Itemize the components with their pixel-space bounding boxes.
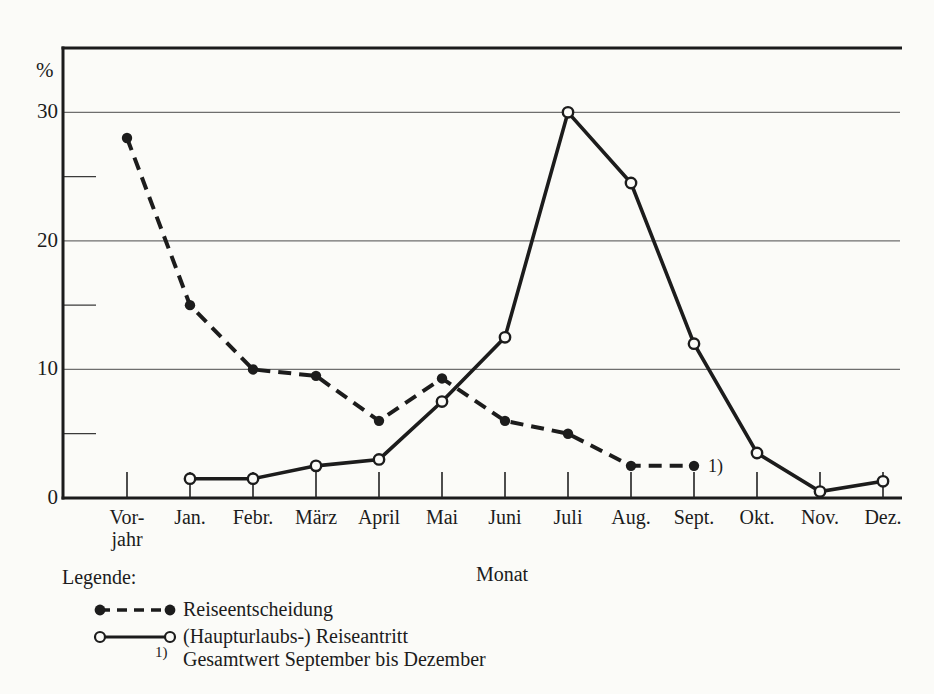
data-point-open (563, 107, 573, 117)
y-tick-label-10: 10 (12, 356, 58, 381)
data-point-filled (500, 416, 510, 426)
y-tick-label-0: 0 (12, 485, 58, 510)
series-line-solid (190, 112, 883, 491)
data-point-filled (689, 461, 699, 471)
data-point-filled (248, 364, 258, 374)
data-point-open (689, 339, 699, 349)
data-point-filled (122, 133, 132, 143)
series-line-dashed (127, 138, 694, 466)
x-axis-title: Monat (452, 563, 552, 586)
dashed-line-legend-marker (92, 601, 178, 619)
line-chart-canvas: 1) (0, 0, 934, 694)
data-point-filled (437, 373, 447, 383)
data-point-filled (626, 461, 636, 471)
data-point-open (626, 178, 636, 188)
y-tick-label-20: 20 (12, 228, 58, 253)
chart-figure: 1) 0102030 Vor- jahrJan.Febr.MärzAprilMa… (0, 0, 934, 694)
footnote-reference-annotation: 1) (708, 456, 723, 477)
data-point-filled (563, 429, 573, 439)
data-point-open (437, 396, 447, 406)
data-point-filled (374, 416, 384, 426)
data-point-open (374, 454, 384, 464)
x-tick-label-dez: Dez. (845, 507, 921, 529)
legend-label-reiseentscheidung: Reiseentscheidung (183, 598, 333, 621)
data-point-filled (311, 371, 321, 381)
data-point-open (311, 461, 321, 471)
y-tick-label-30: 30 (12, 99, 58, 124)
data-point-filled (185, 300, 195, 310)
data-point-open (752, 448, 762, 458)
legend-label-reiseantritt: (Haupturlaubs-) Reiseantritt (183, 625, 408, 648)
legend-footnote-marker: 1) (155, 644, 168, 661)
data-point-open (815, 486, 825, 496)
data-point-open (185, 474, 195, 484)
data-point-open (500, 332, 510, 342)
data-point-open (878, 476, 888, 486)
data-point-open (248, 474, 258, 484)
legend-footnote-text: Gesamtwert September bis Dezember (183, 648, 486, 671)
legend-title: Legende: (62, 566, 136, 589)
y-axis-unit-label: % (36, 58, 54, 83)
